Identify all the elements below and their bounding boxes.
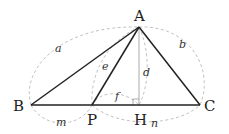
side-AB <box>31 27 139 105</box>
point-label-P: P <box>87 111 97 129</box>
segment-label-d: d <box>143 66 150 79</box>
point-label-A: A <box>133 7 145 25</box>
segment-label-f: f <box>114 90 121 103</box>
geometry-diagram: A B C P H a b e d f m n <box>0 0 229 134</box>
point-label-B: B <box>13 97 24 115</box>
segment-label-m: m <box>56 116 66 129</box>
segment-label-b: b <box>179 38 186 51</box>
segment-label-e: e <box>102 60 109 73</box>
segment-label-n: n <box>151 117 158 130</box>
segment-label-a: a <box>55 42 62 55</box>
point-label-C: C <box>204 97 215 115</box>
point-label-H: H <box>134 111 147 129</box>
